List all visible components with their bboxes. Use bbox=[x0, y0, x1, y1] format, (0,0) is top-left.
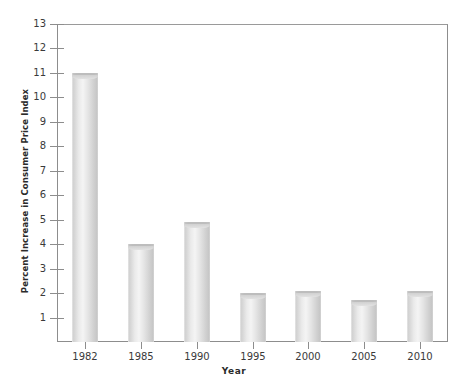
x-axis-tick-label: 2005 bbox=[334, 352, 394, 362]
y-axis-tick-inner bbox=[58, 293, 64, 294]
y-axis-tick-inner bbox=[58, 122, 64, 123]
bar bbox=[240, 293, 266, 342]
bar-top-edge bbox=[295, 291, 321, 293]
x-axis-tick bbox=[308, 342, 309, 349]
bar-top-edge bbox=[240, 293, 266, 295]
y-axis-tick bbox=[50, 171, 58, 172]
bar-top-edge bbox=[407, 291, 433, 293]
x-axis-tick-label: 1985 bbox=[111, 352, 171, 362]
y-axis-tick-inner bbox=[58, 97, 64, 98]
bar-top-edge bbox=[128, 244, 154, 246]
y-axis-tick-label: 13 bbox=[0, 19, 46, 29]
y-axis-tick bbox=[50, 269, 58, 270]
y-axis-tick bbox=[50, 73, 58, 74]
x-axis-tick bbox=[420, 342, 421, 349]
y-axis-tick-label: 1 bbox=[0, 313, 46, 323]
y-axis-tick-inner bbox=[58, 220, 64, 221]
x-axis-tick bbox=[197, 342, 198, 349]
bar-chart: Percent Increase in Consumer Price Index… bbox=[0, 0, 468, 391]
y-axis-tick bbox=[50, 146, 58, 147]
y-axis-tick-label: 12 bbox=[0, 43, 46, 53]
y-axis-tick-inner bbox=[58, 269, 64, 270]
y-axis-tick bbox=[50, 195, 58, 196]
bar bbox=[184, 222, 210, 342]
bar bbox=[351, 300, 377, 342]
y-axis-tick-inner bbox=[58, 195, 64, 196]
y-axis-tick-label: 4 bbox=[0, 239, 46, 249]
y-axis-tick-inner bbox=[58, 146, 64, 147]
y-axis-tick bbox=[50, 293, 58, 294]
y-axis-tick bbox=[50, 48, 58, 49]
bar bbox=[128, 244, 154, 342]
x-axis-tick-label: 1990 bbox=[167, 352, 227, 362]
bar bbox=[295, 291, 321, 342]
x-axis-tick-label: 1995 bbox=[223, 352, 283, 362]
bar-top-edge bbox=[184, 222, 210, 224]
bar bbox=[72, 73, 98, 342]
y-axis-tick-label: 2 bbox=[0, 288, 46, 298]
y-axis-tick-inner bbox=[58, 318, 64, 319]
y-axis-tick-label: 11 bbox=[0, 68, 46, 78]
x-axis-tick-label: 1982 bbox=[55, 352, 115, 362]
y-axis-tick-inner bbox=[58, 244, 64, 245]
x-axis-tick-label: 2000 bbox=[278, 352, 338, 362]
bar-top-edge bbox=[72, 73, 98, 75]
y-axis-tick bbox=[50, 97, 58, 98]
y-axis-tick-label: 10 bbox=[0, 92, 46, 102]
y-axis-tick-inner bbox=[58, 24, 64, 25]
y-axis-tick-label: 6 bbox=[0, 190, 46, 200]
y-axis-tick-inner bbox=[58, 48, 64, 49]
x-axis-tick bbox=[85, 342, 86, 349]
y-axis-tick-inner bbox=[58, 73, 64, 74]
y-axis-tick-label: 5 bbox=[0, 215, 46, 225]
y-axis-tick bbox=[50, 122, 58, 123]
y-axis-tick bbox=[50, 220, 58, 221]
x-axis-tick bbox=[364, 342, 365, 349]
y-axis-tick-label: 3 bbox=[0, 264, 46, 274]
x-axis-title: Year bbox=[0, 366, 468, 376]
y-axis-tick-label: 8 bbox=[0, 141, 46, 151]
y-axis-tick-label: 7 bbox=[0, 166, 46, 176]
y-axis-tick-inner bbox=[58, 171, 64, 172]
bar bbox=[407, 291, 433, 342]
x-axis-tick bbox=[253, 342, 254, 349]
y-axis-tick-label: 9 bbox=[0, 117, 46, 127]
y-axis-tick bbox=[50, 24, 58, 25]
x-axis-tick bbox=[141, 342, 142, 349]
x-axis-tick-label: 2010 bbox=[390, 352, 450, 362]
y-axis-tick bbox=[50, 244, 58, 245]
y-axis-tick bbox=[50, 318, 58, 319]
